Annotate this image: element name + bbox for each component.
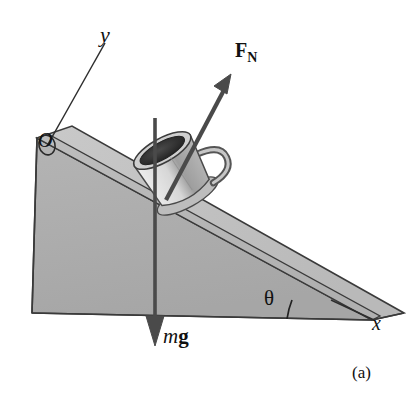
panel-label: (a) xyxy=(352,364,371,381)
normal-force-symbol: F xyxy=(235,39,247,61)
origin-label: O xyxy=(38,130,52,150)
normal-force-arrowhead xyxy=(214,74,231,94)
weight-mass-symbol: m xyxy=(163,324,178,348)
weight-arrowhead xyxy=(146,316,164,346)
weight-label: mg xyxy=(163,326,189,347)
x-axis-label: x xyxy=(372,313,381,333)
normal-force-label: FN xyxy=(235,40,257,65)
diagram-canvas xyxy=(0,0,410,409)
y-axis-label: y xyxy=(100,24,110,46)
weight-gravity-symbol: g xyxy=(178,324,189,348)
physics-figure-inclined-plane: y O x θ FN mg (a) xyxy=(0,0,410,409)
angle-theta-label: θ xyxy=(264,288,274,309)
inclined-plane-wedge xyxy=(32,126,404,320)
normal-force-subscript: N xyxy=(247,50,257,65)
